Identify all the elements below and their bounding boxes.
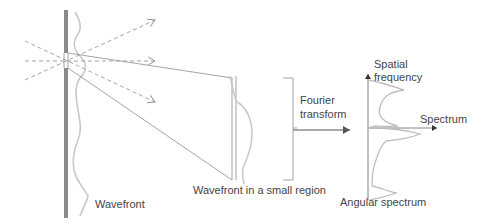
bracket	[283, 78, 297, 180]
fourier-transform-label: Fourier transform	[300, 94, 346, 120]
small-region-wavefront-curve	[230, 76, 252, 184]
spectrum-axes	[368, 74, 437, 200]
wavefront-bar	[64, 10, 68, 218]
angular-spectrum-label: Angular spectrum	[340, 196, 426, 208]
spatial-frequency-label: Spatial frequency	[374, 58, 423, 83]
small-region-label: Wavefront in a small region	[193, 184, 326, 196]
angular-spectrum-curve	[368, 80, 420, 200]
small-region-projection	[68, 53, 236, 180]
wavefront-label: Wavefront	[95, 198, 145, 210]
dashed-rays	[25, 20, 155, 102]
spectrum-axis-label: Spectrum	[420, 113, 467, 125]
diffraction-diagram: Fourier transform Wavefront Wavefront in…	[0, 0, 485, 224]
wavefront-curve	[73, 12, 88, 216]
